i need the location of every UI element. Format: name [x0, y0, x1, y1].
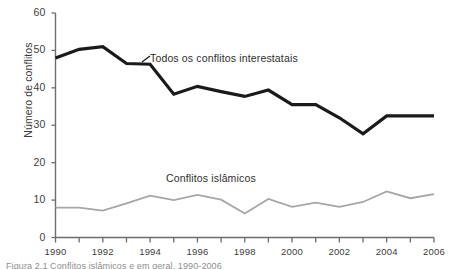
series-label-all-interstate-conflicts: Todos os conflitos interestatais: [150, 52, 298, 64]
figure-caption: Figura 2.1 Conflitos islâmicos e em gera…: [6, 261, 222, 269]
y-tick-label: 60: [12, 6, 46, 18]
annotation-leaders: [142, 56, 150, 62]
y-tick-label: 20: [12, 156, 46, 168]
y-tick-label: 0: [12, 231, 46, 243]
x-tick-label: 1990: [33, 246, 79, 257]
x-tick-label: 1992: [80, 246, 126, 257]
x-tick-label: 1998: [222, 246, 268, 257]
figure-container: Número de conflitos 0102030405060 199019…: [0, 0, 449, 269]
x-tick-label: 1996: [174, 246, 220, 257]
series-line-1: [56, 191, 435, 213]
y-tick-label: 10: [12, 193, 46, 205]
x-tick-label: 2002: [316, 246, 362, 257]
x-axis-ticks: [56, 238, 435, 243]
leader-line-all-conflicts: [142, 56, 150, 62]
series-label-islamic-conflicts: Conflitos islâmicos: [166, 172, 256, 184]
x-tick-label: 2006: [411, 246, 449, 257]
y-tick-label: 50: [12, 43, 46, 55]
x-tick-label: 2004: [364, 246, 410, 257]
y-tick-label: 30: [12, 118, 46, 130]
data-series-group: [56, 47, 435, 214]
chart-plot: [0, 0, 449, 269]
x-tick-label: 2000: [269, 246, 315, 257]
x-tick-label: 1994: [127, 246, 173, 257]
y-tick-label: 40: [12, 81, 46, 93]
